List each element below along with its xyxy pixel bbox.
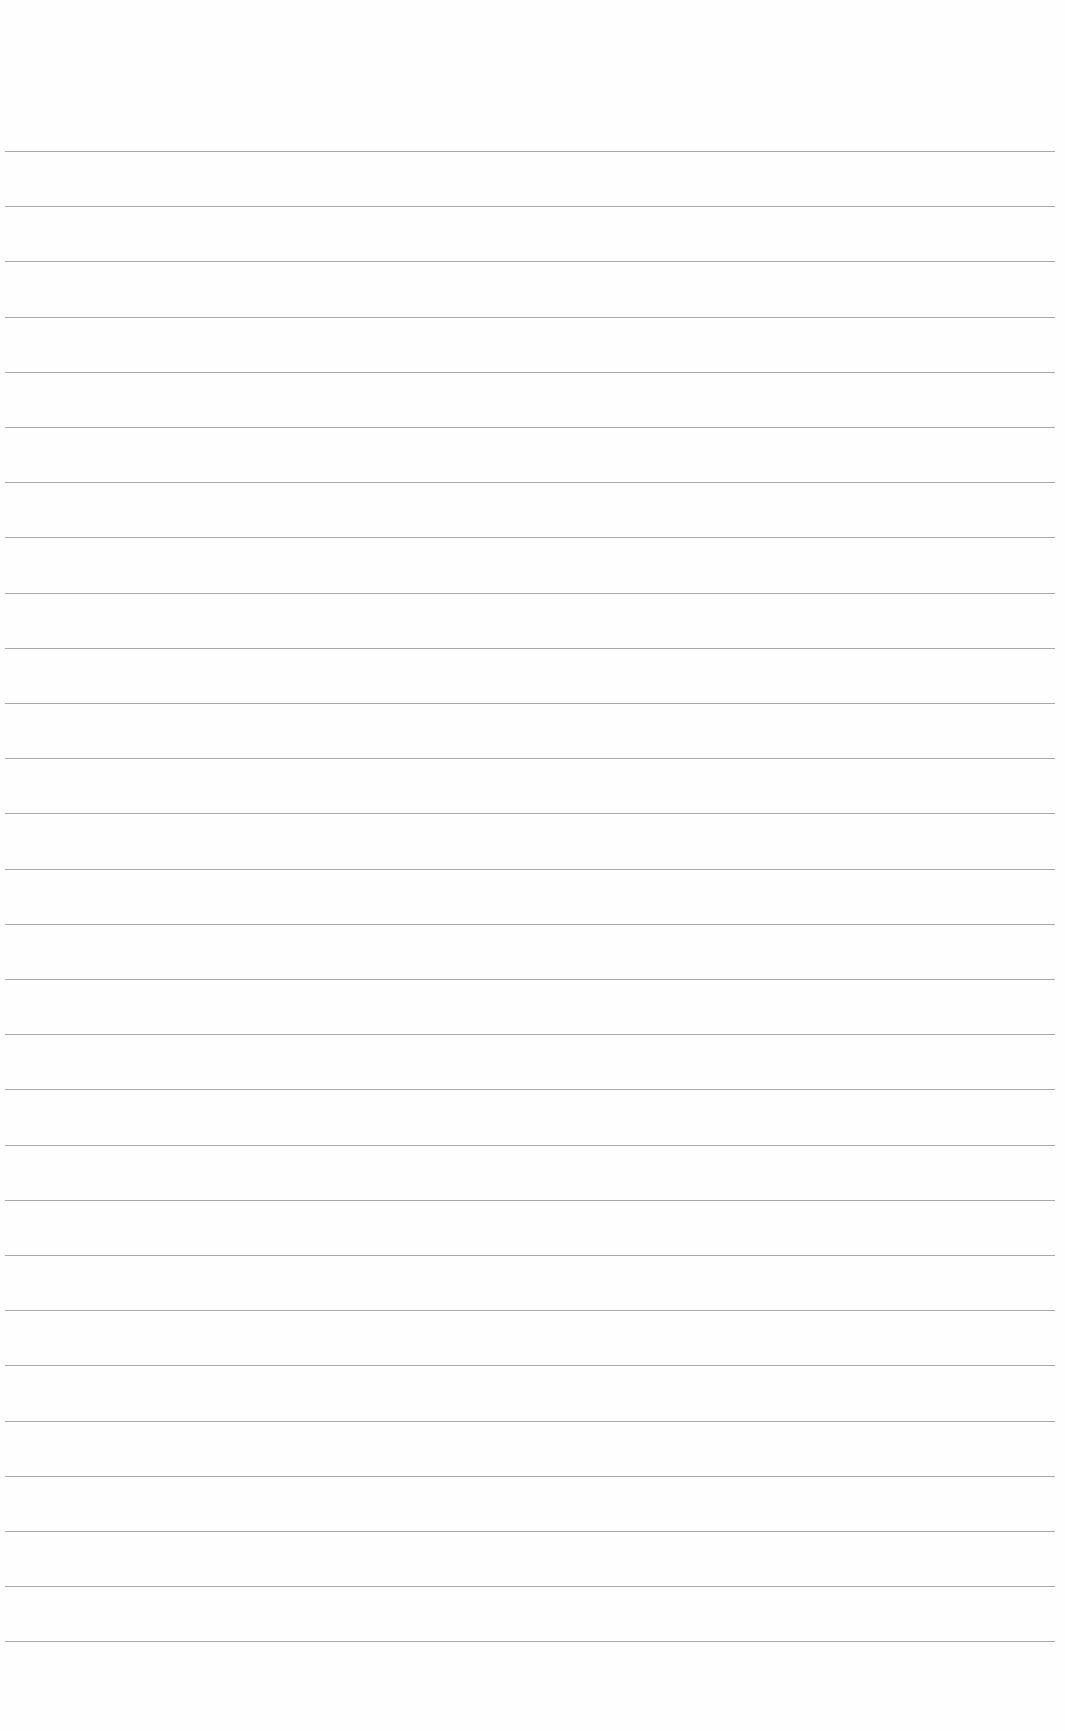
ruled-line	[5, 1531, 1055, 1532]
ruled-line	[5, 869, 1055, 870]
ruled-line	[5, 758, 1055, 759]
ruled-line	[5, 813, 1055, 814]
ruled-line	[5, 703, 1055, 704]
ruled-line	[5, 206, 1055, 207]
ruled-line	[5, 593, 1055, 594]
ruled-line	[5, 1089, 1055, 1090]
ruled-line	[5, 261, 1055, 262]
lined-paper-sheet	[0, 0, 1065, 1731]
ruled-line	[5, 1255, 1055, 1256]
ruled-line	[5, 1641, 1055, 1642]
ruled-line	[5, 1034, 1055, 1035]
ruled-line	[5, 924, 1055, 925]
ruled-line	[5, 648, 1055, 649]
ruled-line	[5, 1310, 1055, 1311]
ruled-line	[5, 151, 1055, 152]
ruled-line	[5, 482, 1055, 483]
ruled-line	[5, 1586, 1055, 1587]
ruled-line	[5, 1145, 1055, 1146]
ruled-line	[5, 1365, 1055, 1366]
ruled-line	[5, 979, 1055, 980]
ruled-line	[5, 1200, 1055, 1201]
ruled-line	[5, 427, 1055, 428]
ruled-line	[5, 372, 1055, 373]
ruled-line	[5, 317, 1055, 318]
ruled-line	[5, 1421, 1055, 1422]
ruled-line	[5, 1476, 1055, 1477]
ruled-line	[5, 537, 1055, 538]
